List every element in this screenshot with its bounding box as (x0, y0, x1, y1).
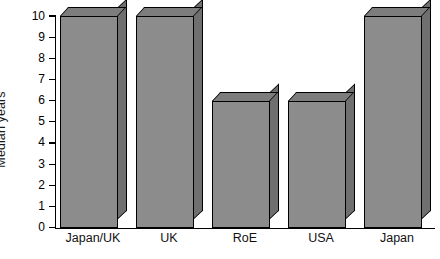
y-axis-tick (49, 142, 55, 143)
bar-side-face (194, 0, 203, 219)
bar (364, 16, 422, 228)
bar-side-face (422, 0, 431, 219)
y-axis-tick-label: 3 (0, 158, 47, 170)
bar-top-face (60, 7, 126, 16)
y-axis-tick (49, 185, 55, 186)
bar (212, 101, 270, 228)
y-axis-tick (49, 79, 55, 80)
y-axis-tick (49, 121, 55, 122)
bar-top-face (364, 7, 430, 16)
x-axis-tick-label: Japan (359, 232, 435, 246)
bar-front-face (212, 101, 270, 228)
bar-top-face (136, 7, 202, 16)
y-axis-tick (49, 206, 55, 207)
y-axis-line (55, 15, 56, 229)
y-axis-tick (49, 15, 55, 16)
bar-front-face (364, 16, 422, 228)
y-axis-tick-label: 8 (0, 52, 47, 64)
bar-chart: Median years 109876543210 Japan/UKUKRoEU… (0, 0, 440, 259)
x-axis-line (55, 228, 435, 229)
y-axis-tick-label: 5 (0, 115, 47, 127)
y-axis-tick-label: 7 (0, 73, 47, 85)
y-axis-tick-label: 6 (0, 94, 47, 106)
bar-side-face (270, 83, 279, 218)
y-axis-tick (49, 58, 55, 59)
y-axis-tick-label: 10 (0, 10, 47, 22)
bar-side-face (346, 83, 355, 218)
x-axis-tick-label: USA (283, 232, 359, 246)
bar (136, 16, 194, 228)
bar-front-face (60, 16, 118, 228)
y-axis-tick-label: 4 (0, 136, 47, 148)
bar (60, 16, 118, 228)
y-axis-tick-label: 0 (0, 221, 47, 233)
bar-front-face (136, 16, 194, 228)
y-axis-tick (49, 100, 55, 101)
y-axis-tick-labels: 109876543210 (0, 0, 47, 259)
y-axis-tick-label: 9 (0, 31, 47, 43)
y-axis-tick (49, 164, 55, 165)
bar (288, 101, 346, 228)
bar-top-face (288, 92, 354, 101)
bar-front-face (288, 101, 346, 228)
y-axis-tick-label: 1 (0, 200, 47, 212)
x-axis-tick-label: Japan/UK (55, 232, 131, 246)
x-axis-tick-label: RoE (207, 232, 283, 246)
bar-side-face (118, 0, 127, 219)
y-axis-tick (49, 227, 55, 228)
bar-top-face (212, 92, 278, 101)
y-axis-tick (49, 37, 55, 38)
y-axis-tick-label: 2 (0, 179, 47, 191)
x-axis-tick-label: UK (131, 232, 207, 246)
